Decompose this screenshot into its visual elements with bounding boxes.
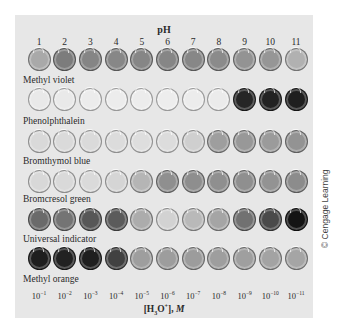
concentration-label: 10−4 <box>102 290 130 301</box>
ph-value-label: 3 <box>78 37 102 47</box>
concentration-label: 10−11 <box>282 290 310 301</box>
sample-well <box>53 247 76 270</box>
indicator-label: Universal indicator <box>23 234 96 244</box>
sample-well <box>182 208 205 231</box>
sample-well <box>233 208 256 231</box>
sample-well <box>259 130 282 153</box>
sample-well <box>233 48 256 71</box>
concentration-label: 10−3 <box>76 290 104 301</box>
sample-well <box>182 88 205 111</box>
concentration-label: 10−8 <box>205 290 233 301</box>
h3o-axis-label: [H3O+], M <box>15 303 313 316</box>
sample-well <box>233 247 256 270</box>
concentration-label: 10−2 <box>51 290 79 301</box>
concentration-label: 10−7 <box>179 290 207 301</box>
sample-well <box>28 170 51 193</box>
copyright-credit: © Cengage Learning <box>320 169 330 248</box>
sample-well <box>53 88 76 111</box>
indicator-label: Methyl orange <box>23 274 79 284</box>
sample-well <box>156 88 179 111</box>
sample-well <box>233 88 256 111</box>
indicator-row <box>15 208 313 232</box>
sample-well <box>79 88 102 111</box>
sample-well <box>285 88 308 111</box>
ph-value-label: 6 <box>156 37 180 47</box>
sample-well <box>156 130 179 153</box>
sample-well <box>105 170 128 193</box>
sample-well <box>207 170 230 193</box>
sample-well <box>28 208 51 231</box>
sample-well <box>207 48 230 71</box>
sample-well <box>285 48 308 71</box>
sample-well <box>79 48 102 71</box>
sample-well <box>28 48 51 71</box>
sample-well <box>130 48 153 71</box>
concentration-label: 10−10 <box>256 290 284 301</box>
ph-value-label: 7 <box>181 37 205 47</box>
ph-value-label: 1 <box>27 37 51 47</box>
sample-well <box>156 247 179 270</box>
concentration-label: 10−1 <box>25 290 53 301</box>
sample-well <box>207 130 230 153</box>
sample-well <box>105 247 128 270</box>
indicator-label: Methyl violet <box>23 75 74 85</box>
ph-value-label: 10 <box>258 37 282 47</box>
indicator-label: Phenolphthalein <box>23 116 85 126</box>
ph-value-label: 5 <box>130 37 154 47</box>
sample-well <box>233 170 256 193</box>
ph-value-label: 4 <box>104 37 128 47</box>
ph-value-label: 8 <box>207 37 231 47</box>
sample-well <box>28 247 51 270</box>
indicator-label: Bromcresol green <box>23 194 91 204</box>
concentration-label: 10−6 <box>154 290 182 301</box>
sample-well <box>233 130 256 153</box>
sample-well <box>285 130 308 153</box>
sample-well <box>105 208 128 231</box>
sample-well <box>28 88 51 111</box>
indicator-row <box>15 170 313 194</box>
indicator-row <box>15 247 313 271</box>
sample-well <box>259 88 282 111</box>
sample-well <box>130 88 153 111</box>
sample-well <box>156 48 179 71</box>
sample-well <box>285 170 308 193</box>
sample-well <box>79 208 102 231</box>
sample-well <box>156 208 179 231</box>
sample-well <box>259 48 282 71</box>
sample-well <box>182 130 205 153</box>
sample-well <box>156 170 179 193</box>
sample-well <box>130 208 153 231</box>
sample-well <box>105 130 128 153</box>
sample-well <box>53 170 76 193</box>
sample-well <box>285 247 308 270</box>
sample-well <box>79 170 102 193</box>
sample-well <box>130 247 153 270</box>
ph-value-label: 9 <box>233 37 257 47</box>
sample-well <box>105 48 128 71</box>
sample-well <box>130 170 153 193</box>
indicator-chart-panel: pH 1234567891011 Methyl violetPhenolphth… <box>15 15 313 318</box>
ph-value-label: 11 <box>284 37 308 47</box>
sample-well <box>105 88 128 111</box>
indicator-row <box>15 48 313 72</box>
sample-well <box>53 48 76 71</box>
sample-well <box>130 130 153 153</box>
indicator-label: Bromthymol blue <box>23 156 90 166</box>
sample-well <box>182 247 205 270</box>
sample-well <box>207 208 230 231</box>
sample-well <box>182 170 205 193</box>
sample-well <box>53 130 76 153</box>
concentration-label: 10−9 <box>231 290 259 301</box>
sample-well <box>207 88 230 111</box>
sample-well <box>207 247 230 270</box>
indicator-row <box>15 130 313 154</box>
sample-well <box>53 208 76 231</box>
sample-well <box>182 48 205 71</box>
ph-title: pH <box>15 24 313 35</box>
indicator-row <box>15 88 313 112</box>
sample-well <box>259 170 282 193</box>
ph-value-label: 2 <box>53 37 77 47</box>
sample-well <box>79 130 102 153</box>
sample-well <box>79 247 102 270</box>
sample-well <box>28 130 51 153</box>
